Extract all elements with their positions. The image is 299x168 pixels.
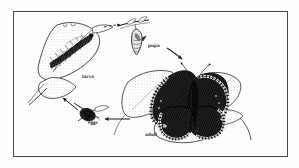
stage-label-adult: adult — [145, 133, 157, 138]
stage-larva — [28, 23, 113, 105]
stage-adult — [114, 63, 251, 143]
stage-eggs — [74, 103, 109, 121]
butterfly-life-cycle-figure: larva pupa adult eggs — [0, 0, 299, 168]
stage-label-eggs: eggs — [88, 121, 98, 126]
stage-pupa — [118, 17, 150, 55]
life-cycle-illustration — [0, 0, 299, 168]
stage-label-larva: larva — [82, 75, 94, 80]
stage-label-pupa: pupa — [148, 44, 160, 49]
arrow-pupa-to-adult — [167, 48, 182, 59]
